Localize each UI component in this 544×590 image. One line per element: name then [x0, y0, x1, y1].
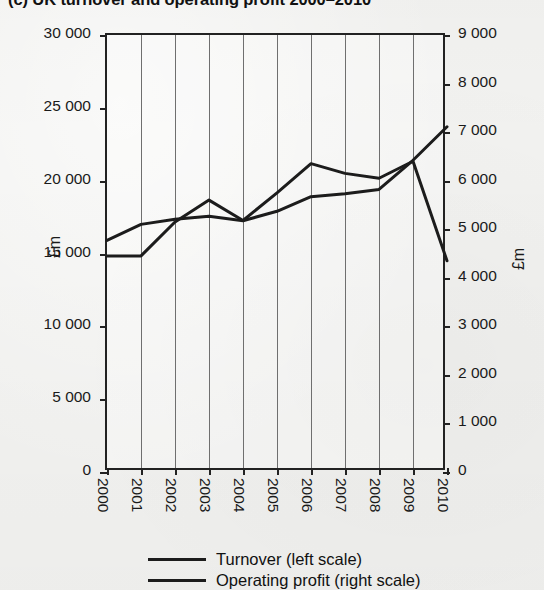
x-axis-tick-label: 2010	[434, 478, 452, 512]
x-axis-tick-label: 2000	[94, 478, 112, 512]
x-axis-tick-label: 2009	[400, 478, 418, 512]
x-axis-tick-label: 2002	[162, 478, 180, 512]
right-axis-tick-label: 8 000	[458, 74, 538, 89]
axis-tick	[443, 278, 450, 280]
right-axis-tick-label: 2 000	[458, 365, 538, 380]
x-axis-tick-label: 2004	[230, 478, 248, 512]
series-lines	[107, 35, 447, 472]
right-axis-tick-label: 0	[458, 462, 538, 477]
x-axis-tick-label: 2008	[366, 478, 384, 512]
legend-line-swatch	[148, 579, 206, 582]
plot-area	[105, 33, 445, 470]
x-axis-tick-label: 2005	[264, 478, 282, 512]
left-axis-tick-label: 30 000	[13, 25, 91, 40]
axis-tick	[209, 468, 211, 475]
axis-tick	[413, 468, 415, 475]
axis-tick	[345, 468, 347, 475]
axis-tick	[443, 35, 450, 37]
left-axis-tick-label: 10 000	[13, 316, 91, 331]
axis-tick	[100, 108, 107, 110]
axis-tick	[443, 326, 450, 328]
left-axis-tick-label: 20 000	[13, 171, 91, 186]
axis-tick	[443, 229, 450, 231]
right-axis-tick-label: 7 000	[458, 122, 538, 137]
chart-legend: Turnover (left scale) Operating profit (…	[148, 549, 528, 590]
axis-tick	[243, 468, 245, 475]
axis-tick	[443, 375, 450, 377]
axis-tick	[141, 468, 143, 475]
right-axis-tick-label: 6 000	[458, 171, 538, 186]
right-axis-tick-label: 9 000	[458, 25, 538, 40]
left-axis-tick-label: 0	[13, 462, 91, 477]
legend-label: Turnover (left scale)	[216, 550, 362, 569]
right-axis-tick-label: 3 000	[458, 316, 538, 331]
axis-tick	[100, 472, 107, 474]
turnover-line	[107, 127, 447, 241]
legend-label: Operating profit (right scale)	[216, 571, 421, 590]
left-axis-tick-label: 5 000	[13, 389, 91, 404]
legend-item-turnover: Turnover (left scale)	[148, 549, 528, 570]
axis-tick	[447, 468, 449, 475]
axis-tick	[100, 254, 107, 256]
axis-tick	[100, 326, 107, 328]
axis-tick	[443, 132, 450, 134]
x-axis-tick-label: 2006	[298, 478, 316, 512]
axis-tick	[100, 181, 107, 183]
right-axis-tick-label: 5 000	[458, 219, 538, 234]
chart-title: (c) UK turnover and operating profit 200…	[8, 0, 538, 12]
axis-tick	[100, 399, 107, 401]
x-axis-tick-label: 2007	[332, 478, 350, 512]
axis-tick	[311, 468, 313, 475]
legend-item-operating-profit: Operating profit (right scale)	[148, 570, 528, 590]
x-axis-tick-label: 2003	[196, 478, 214, 512]
left-axis-tick-label: 25 000	[13, 98, 91, 113]
axis-tick	[443, 84, 450, 86]
legend-line-swatch	[148, 558, 206, 561]
left-axis-tick-label: 15 000	[13, 244, 91, 259]
axis-tick	[175, 468, 177, 475]
axis-tick	[277, 468, 279, 475]
axis-tick	[379, 468, 381, 475]
x-axis-tick-label: 2001	[128, 478, 146, 512]
axis-tick	[100, 35, 107, 37]
right-axis-tick-label: 1 000	[458, 413, 538, 428]
axis-tick	[107, 468, 109, 475]
right-axis-tick-label: 4 000	[458, 268, 538, 283]
axis-tick	[443, 181, 450, 183]
axis-tick	[443, 423, 450, 425]
